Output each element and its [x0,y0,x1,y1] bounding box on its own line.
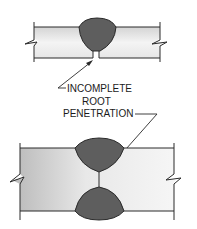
bottom-weld-figure [10,138,181,220]
label-penetration: PENETRATION [63,109,133,119]
top-weld-figure [25,18,167,62]
label-root: ROOT [82,97,111,107]
label-incomplete: INCOMPLETE [67,84,132,94]
